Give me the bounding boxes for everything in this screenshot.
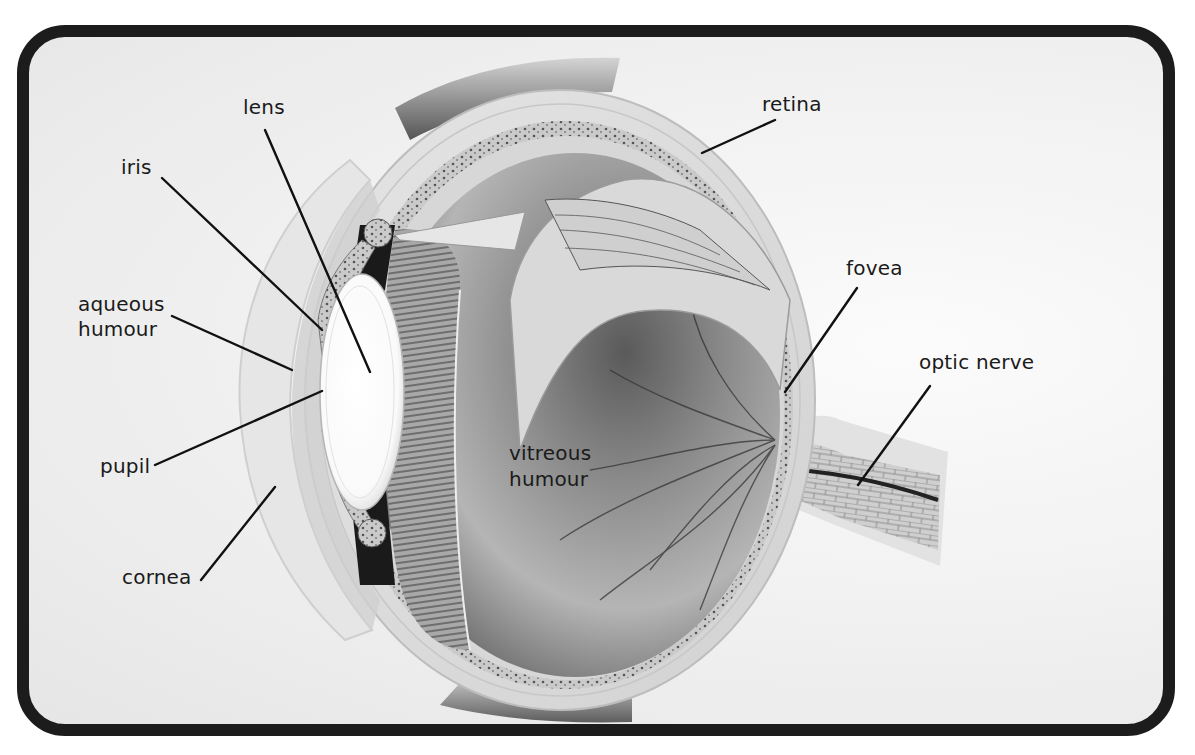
leader-lines — [0, 0, 1195, 755]
leader-fovea — [785, 288, 857, 392]
label-cornea: cornea — [122, 565, 192, 589]
leader-lens — [265, 130, 370, 372]
leader-retina — [702, 120, 775, 153]
leader-optic-nerve — [858, 386, 930, 485]
label-aqueous-humour-line2: humour — [78, 317, 157, 341]
label-fovea: fovea — [846, 256, 903, 280]
label-iris: iris — [121, 155, 152, 179]
label-lens: lens — [243, 95, 285, 119]
leader-iris — [162, 178, 322, 330]
label-optic-nerve: optic nerve — [919, 350, 1034, 374]
label-vitreous-humour-line2: humour — [509, 467, 588, 491]
label-retina: retina — [762, 92, 822, 116]
leader-aqueous-humour — [172, 316, 292, 370]
label-aqueous-humour-line1: aqueous — [78, 292, 165, 316]
leader-pupil — [155, 391, 322, 465]
leader-cornea — [201, 487, 275, 580]
label-pupil: pupil — [100, 454, 150, 478]
label-vitreous-humour-line1: vitreous — [509, 441, 591, 465]
